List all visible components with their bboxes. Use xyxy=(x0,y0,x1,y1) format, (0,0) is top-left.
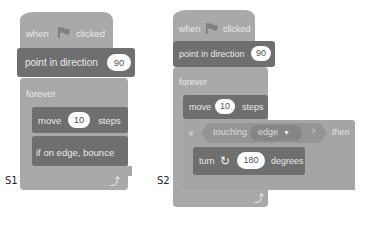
point-label: point in direction xyxy=(25,58,98,68)
move-label: move xyxy=(38,116,61,126)
forever-label: forever xyxy=(179,78,207,87)
edge-dropdown[interactable]: edge xyxy=(258,128,278,137)
hat-clicked-label: clicked xyxy=(76,29,105,39)
hat-when-label: when xyxy=(26,29,49,39)
steps-input[interactable]: 10 xyxy=(215,99,235,114)
panel-label-s1: S1 xyxy=(5,175,18,186)
steps-input[interactable]: 10 xyxy=(68,112,90,128)
panel-label-s2: S2 xyxy=(157,175,170,186)
hat-when-label: when xyxy=(179,25,201,34)
touching-label: touching xyxy=(213,128,247,137)
rotate-clockwise-icon: ↻ xyxy=(220,155,230,167)
degrees-input[interactable]: 180 xyxy=(237,152,265,169)
dropdown-arrow-icon: ▼ xyxy=(283,129,290,136)
steps-label: steps xyxy=(242,103,264,112)
then-label: then xyxy=(332,128,350,137)
forever-label: forever xyxy=(26,89,56,99)
point-label: point in direction xyxy=(179,50,245,59)
move-label: move xyxy=(189,103,211,112)
hat-clicked-label: clicked xyxy=(223,25,251,34)
green-flag-icon xyxy=(58,27,70,38)
bounce-label: if on edge, bounce xyxy=(36,148,114,158)
degrees-label: degrees xyxy=(271,157,304,166)
loop-arrow-icon: ⤴ xyxy=(110,177,120,187)
steps-label: steps xyxy=(98,116,121,126)
green-flag-icon xyxy=(206,23,218,34)
loop-arrow-icon: ⤴ xyxy=(254,194,264,204)
direction-input[interactable]: 90 xyxy=(251,46,271,61)
if-label: if xyxy=(189,130,193,138)
question-label: ? xyxy=(311,128,315,136)
direction-input[interactable]: 90 xyxy=(107,54,131,71)
turn-label: turn xyxy=(199,157,215,166)
